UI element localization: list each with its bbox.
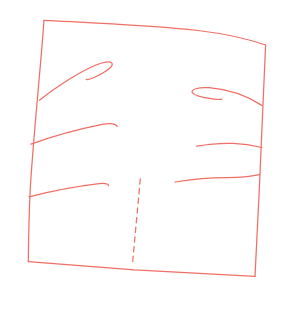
sketch-artboard — [0, 0, 282, 329]
right-upper-curl — [192, 88, 262, 106]
center-dashed-line — [132, 179, 140, 265]
left-upper-curl — [39, 62, 112, 100]
sketch-canvas — [0, 0, 282, 329]
left-lower-curve — [29, 184, 109, 197]
left-middle-curve — [31, 124, 117, 145]
outline-top-edge — [44, 20, 266, 45]
outline-right-edge — [255, 45, 266, 276]
right-middle-curve — [197, 143, 262, 147]
outline-bottom-edge — [28, 262, 255, 277]
right-lower-curve — [175, 175, 260, 182]
